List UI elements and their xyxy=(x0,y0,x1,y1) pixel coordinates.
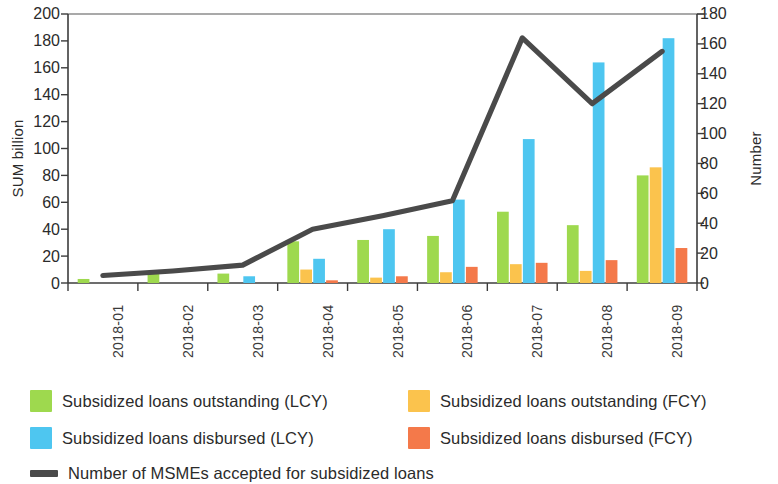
y-tick-right-160: 160 xyxy=(700,36,744,52)
legend-label-outstanding-lcy: Subsidized loans outstanding (LCY) xyxy=(62,392,328,411)
x-tick-2018-04: 2018-04 xyxy=(320,305,336,358)
y-tick-left-0: 0 xyxy=(20,276,60,292)
y-tick-left-40: 40 xyxy=(20,222,60,238)
y-tick-right-40: 40 xyxy=(700,216,744,232)
y-tick-right-20: 20 xyxy=(700,246,744,262)
legend-swatch-green xyxy=(30,390,52,412)
y-tick-right-0: 0 xyxy=(700,276,744,292)
legend-label-msme-line: Number of MSMEs accepted for subsidized … xyxy=(68,464,434,483)
y-tick-right-120: 120 xyxy=(700,96,744,112)
x-tick-2018-05: 2018-05 xyxy=(390,305,406,358)
legend-item-disbursed-fcy[interactable]: Subsidized loans disbursed (FCY) xyxy=(408,427,693,449)
chart-legend: Subsidized loans outstanding (LCY) Subsi… xyxy=(0,386,778,484)
legend-item-outstanding-fcy[interactable]: Subsidized loans outstanding (FCY) xyxy=(408,390,707,412)
x-tick-2018-01: 2018-01 xyxy=(110,305,126,358)
y-tick-left-100: 100 xyxy=(20,141,60,157)
x-tick-2018-07: 2018-07 xyxy=(529,305,545,358)
chart-figure: SUM billion Number 200 180 160 140 120 1… xyxy=(0,0,778,484)
x-tick-2018-08: 2018-08 xyxy=(599,305,615,358)
legend-label-disbursed-fcy: Subsidized loans disbursed (FCY) xyxy=(440,429,693,448)
legend-item-msme-line[interactable]: Number of MSMEs accepted for subsidized … xyxy=(30,464,434,483)
plot-area: SUM billion Number 200 180 160 140 120 1… xyxy=(0,0,778,380)
y-tick-left-160: 160 xyxy=(20,60,60,76)
y-axis-title-right: Number xyxy=(747,79,764,239)
y-tick-left-140: 140 xyxy=(20,87,60,103)
legend-item-disbursed-lcy[interactable]: Subsidized loans disbursed (LCY) xyxy=(30,427,314,449)
y-tick-left-180: 180 xyxy=(20,33,60,49)
legend-item-outstanding-lcy[interactable]: Subsidized loans outstanding (LCY) xyxy=(30,390,328,412)
x-tick-2018-09: 2018-09 xyxy=(669,305,685,358)
legend-label-outstanding-fcy: Subsidized loans outstanding (FCY) xyxy=(440,392,707,411)
x-tick-2018-06: 2018-06 xyxy=(459,305,475,358)
y-tick-left-60: 60 xyxy=(20,195,60,211)
y-axis-right-ticks: 180 160 140 120 100 80 60 40 20 0 xyxy=(700,0,748,290)
y-tick-right-80: 80 xyxy=(700,156,744,172)
y-tick-right-140: 140 xyxy=(700,66,744,82)
y-tick-left-120: 120 xyxy=(20,114,60,130)
y-axis-left-ticks: 200 180 160 140 120 100 80 60 40 20 0 xyxy=(16,0,60,290)
x-tick-2018-03: 2018-03 xyxy=(250,305,266,358)
legend-swatch-yellow xyxy=(408,390,430,412)
y-tick-left-20: 20 xyxy=(20,249,60,265)
y-tick-right-60: 60 xyxy=(700,186,744,202)
x-tick-2018-02: 2018-02 xyxy=(180,305,196,358)
y-tick-right-100: 100 xyxy=(700,126,744,142)
legend-swatch-cyan xyxy=(30,427,52,449)
y-tick-left-80: 80 xyxy=(20,168,60,184)
legend-swatch-orange xyxy=(408,427,430,449)
legend-label-disbursed-lcy: Subsidized loans disbursed (LCY) xyxy=(62,429,314,448)
y-tick-left-200: 200 xyxy=(20,6,60,22)
legend-swatch-line-dark xyxy=(30,470,58,477)
y-tick-right-180: 180 xyxy=(700,6,744,22)
